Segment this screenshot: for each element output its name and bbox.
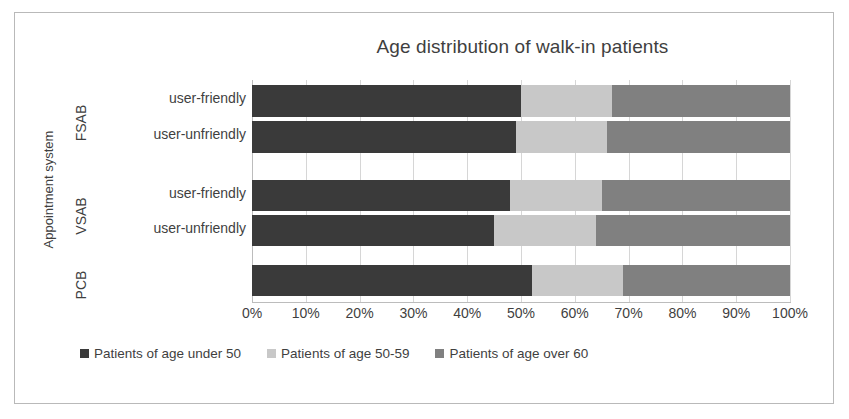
x-tick-label: 60% <box>545 305 605 321</box>
legend-label: Patients of age over 60 <box>449 346 588 361</box>
category-label: user-friendly <box>86 90 246 106</box>
legend-item[interactable]: Patients of age 50-59 <box>267 346 409 361</box>
x-tick-label: 70% <box>599 305 659 321</box>
bar-row <box>252 121 790 153</box>
category-label: user-friendly <box>86 185 246 201</box>
legend-label: Patients of age under 50 <box>94 346 241 361</box>
x-tick-label: 20% <box>330 305 390 321</box>
chart-figure: Age distribution of walk-in patients App… <box>0 0 849 419</box>
category-label: user-unfriendly <box>86 220 246 236</box>
chart-legend: Patients of age under 50Patients of age … <box>80 346 780 361</box>
x-tick-label: 90% <box>706 305 766 321</box>
bar-row <box>252 215 790 246</box>
gridline-100 <box>790 80 791 302</box>
bar-segment <box>612 85 790 117</box>
bar-row <box>252 265 790 296</box>
bar-segment <box>532 265 623 296</box>
legend-swatch-icon <box>435 349 444 358</box>
bar-segment <box>623 265 790 296</box>
bar-segment <box>252 85 521 117</box>
plot-area <box>252 80 790 302</box>
legend-item[interactable]: Patients of age under 50 <box>80 346 241 361</box>
bar-segment <box>607 121 790 153</box>
x-tick-label: 10% <box>276 305 336 321</box>
bar-row <box>252 85 790 117</box>
bar-segment <box>596 215 790 246</box>
x-tick-label: 30% <box>383 305 443 321</box>
x-tick-label: 0% <box>222 305 282 321</box>
bar-segment <box>516 121 607 153</box>
x-axis-tick-labels: 0%10%20%30%40%50%60%70%80%90%100% <box>252 305 790 329</box>
x-tick-label: 100% <box>760 305 820 321</box>
legend-item[interactable]: Patients of age over 60 <box>435 346 588 361</box>
x-axis-line <box>252 302 791 303</box>
x-tick-label: 40% <box>437 305 497 321</box>
bar-segment <box>494 215 596 246</box>
bar-segment <box>602 180 790 211</box>
bar-segment <box>252 265 532 296</box>
legend-swatch-icon <box>80 349 89 358</box>
x-tick-label: 80% <box>652 305 712 321</box>
legend-swatch-icon <box>267 349 276 358</box>
category-label: user-unfriendly <box>86 126 246 142</box>
bar-row <box>252 180 790 211</box>
chart-title: Age distribution of walk-in patients <box>250 36 795 58</box>
bar-segment <box>521 85 612 117</box>
bar-segment <box>252 215 494 246</box>
bar-segment <box>510 180 601 211</box>
x-tick-label: 50% <box>491 305 551 321</box>
legend-label: Patients of age 50-59 <box>281 346 409 361</box>
bar-segment <box>252 180 510 211</box>
y-axis-title: Appointment system <box>41 80 56 300</box>
bar-segment <box>252 121 516 153</box>
